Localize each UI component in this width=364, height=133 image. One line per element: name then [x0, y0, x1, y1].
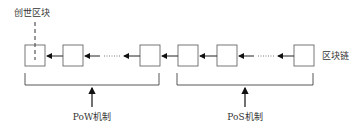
block-pos-n — [294, 45, 314, 66]
pos-mechanism-label: PoS机制 — [227, 111, 262, 122]
block-pow-2 — [63, 45, 83, 66]
block-pos-2 — [217, 45, 237, 66]
block-pos-1 — [178, 45, 198, 66]
pos-bracket — [177, 73, 313, 85]
blockchain-diagram: 创世区块 区块链 PoW机制 PoS机制 — [0, 0, 364, 133]
blockchain-label: 区块链 — [322, 50, 349, 61]
genesis-block-label: 创世区块 — [14, 7, 50, 18]
block-genesis — [25, 45, 45, 66]
pow-mechanism-label: PoW机制 — [73, 111, 111, 122]
pow-bracket — [25, 73, 159, 85]
block-pow-n — [140, 45, 160, 66]
